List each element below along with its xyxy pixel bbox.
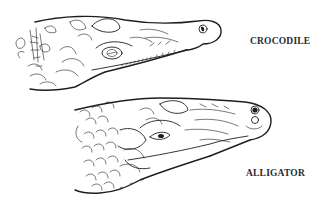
alligator-head [75, 98, 271, 193]
crocodile-head [16, 16, 221, 90]
heads-drawing [0, 0, 319, 213]
crocodile-label: CROCODILE [250, 36, 310, 46]
alligator-label: ALLIGATOR [246, 168, 305, 178]
comparison-illustration: CROCODILE ALLIGATOR [0, 0, 319, 213]
